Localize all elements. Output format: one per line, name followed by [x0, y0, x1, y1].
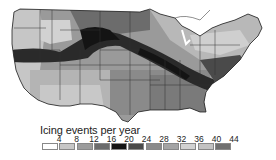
legend-swatch	[215, 143, 231, 150]
legend-swatch	[94, 143, 110, 150]
legend-swatch	[42, 143, 58, 150]
legend-swatch	[128, 143, 144, 150]
legend-swatch	[111, 143, 127, 150]
legend-swatch	[77, 143, 93, 150]
legend-swatch	[146, 143, 162, 150]
legend-color-scale	[42, 143, 232, 150]
legend-swatch	[59, 143, 75, 150]
canada-border	[175, 10, 210, 20]
legend-swatch	[163, 143, 179, 150]
legend-swatch	[198, 143, 214, 150]
legend-swatch	[180, 143, 196, 150]
